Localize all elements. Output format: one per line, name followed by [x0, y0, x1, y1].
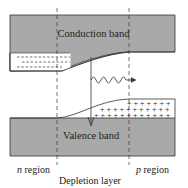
depletion-layer-label: Depletion layer — [59, 175, 122, 186]
holes: + + + + + + + + + + + + + + + + + + + + … — [94, 99, 171, 120]
svg-text:+ + + + + + + + + + + +: + + + + + + + + + + + + — [94, 111, 171, 120]
band-diagram-svg: + + + + + + + + + + + + + + + + + + + + … — [0, 0, 188, 188]
p-region-label: p region — [135, 164, 169, 175]
conduction-band-label: Conduction band — [58, 28, 131, 39]
band-diagram: + + + + + + + + + + + + + + + + + + + + … — [0, 0, 188, 188]
n-region-label: n region — [17, 164, 50, 175]
valence-band-label: Valence band — [63, 130, 120, 141]
photon-wave-icon — [91, 77, 134, 83]
photon-arrow-head-icon — [131, 78, 136, 83]
